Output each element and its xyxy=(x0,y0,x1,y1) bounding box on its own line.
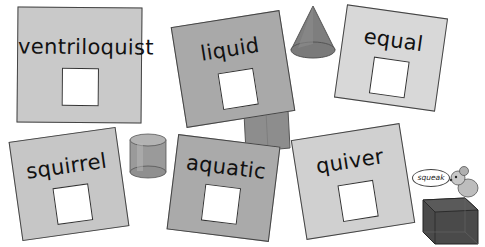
answer-box[interactable] xyxy=(369,57,410,99)
word-label: ventriloquist xyxy=(18,34,141,59)
mouse-icon xyxy=(448,166,482,200)
answer-box[interactable] xyxy=(218,68,259,110)
answer-box[interactable] xyxy=(201,184,241,225)
word-label: squirrel xyxy=(12,147,120,186)
speech-text: squeak xyxy=(418,173,445,182)
answer-box[interactable] xyxy=(52,183,93,225)
word-card-liquid: liquid xyxy=(171,10,296,128)
word-card-ventriloquist: ventriloquist xyxy=(16,6,142,123)
answer-box[interactable] xyxy=(62,68,99,106)
word-label: equal xyxy=(342,21,444,59)
word-card-aquatic: aquatic xyxy=(167,134,281,242)
answer-box[interactable] xyxy=(337,180,378,222)
cone-shape xyxy=(288,4,338,62)
word-card-equal: equal xyxy=(334,4,448,111)
word-label: aquatic xyxy=(174,149,277,185)
word-label: liquid xyxy=(175,29,285,70)
word-card-quiver: quiver xyxy=(291,123,415,240)
word-label: quiver xyxy=(295,141,405,182)
word-card-squirrel: squirrel xyxy=(9,127,130,241)
cylinder-shape xyxy=(127,133,169,181)
speech-bubble: squeak xyxy=(412,169,450,187)
